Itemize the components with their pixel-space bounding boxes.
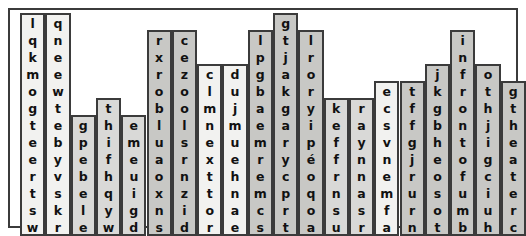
letter-cell[interactable]: u <box>222 134 247 151</box>
letter-cell[interactable]: e <box>20 134 45 151</box>
letter-cell[interactable]: t <box>501 100 526 117</box>
letter-cell[interactable]: e <box>45 117 70 134</box>
letter-cell[interactable]: f <box>400 100 425 117</box>
letter-cell[interactable]: i <box>96 134 121 151</box>
letter-cell[interactable]: u <box>222 83 247 100</box>
letter-cell[interactable]: r <box>45 219 70 236</box>
letter-cell[interactable]: u <box>475 202 500 219</box>
letter-cell[interactable]: d <box>121 219 146 236</box>
letter-cell[interactable]: m <box>20 66 45 83</box>
letter-cell[interactable]: h <box>222 168 247 185</box>
letter-cell[interactable]: e <box>374 83 399 100</box>
letter-cell[interactable]: s <box>425 185 450 202</box>
letter-cell[interactable]: e <box>501 185 526 202</box>
letter-cell[interactable]: x <box>147 49 172 66</box>
letter-cell[interactable]: l <box>71 202 96 219</box>
letter-cell[interactable]: a <box>349 185 374 202</box>
letter-cell[interactable]: n <box>324 185 349 202</box>
letter-cell[interactable]: z <box>172 66 197 83</box>
letter-cell[interactable]: f <box>400 117 425 134</box>
letter-cell[interactable]: c <box>273 168 298 185</box>
letter-cell[interactable]: o <box>172 100 197 117</box>
letter-cell[interactable]: m <box>197 100 222 117</box>
letter-cell[interactable]: r <box>349 100 374 117</box>
letter-cell[interactable]: m <box>248 185 273 202</box>
letter-cell[interactable]: r <box>349 219 374 236</box>
letter-cell[interactable]: u <box>400 185 425 202</box>
letter-cell[interactable]: i <box>298 117 323 134</box>
letter-cell[interactable]: o <box>147 83 172 100</box>
letter-cell[interactable]: g <box>273 100 298 117</box>
letter-cell[interactable]: s <box>20 202 45 219</box>
letter-cell[interactable]: g <box>273 15 298 32</box>
letter-cell[interactable]: n <box>172 168 197 185</box>
letter-cell[interactable]: o <box>298 168 323 185</box>
letter-cell[interactable]: t <box>96 100 121 117</box>
letter-cell[interactable]: r <box>273 134 298 151</box>
letter-cell[interactable]: q <box>45 15 70 32</box>
letter-cell[interactable]: e <box>374 168 399 185</box>
letter-cell[interactable]: e <box>172 49 197 66</box>
letter-cell[interactable]: h <box>475 219 500 236</box>
letter-cell[interactable]: o <box>298 202 323 219</box>
letter-cell[interactable]: w <box>20 219 45 236</box>
letter-cell[interactable]: d <box>172 219 197 236</box>
letter-cell[interactable]: t <box>197 185 222 202</box>
letter-cell[interactable]: e <box>222 151 247 168</box>
letter-cell[interactable]: e <box>71 151 96 168</box>
letter-cell[interactable]: f <box>450 66 475 83</box>
letter-cell[interactable]: k <box>273 83 298 100</box>
letter-cell[interactable]: u <box>450 185 475 202</box>
letter-cell[interactable]: p <box>71 134 96 151</box>
letter-cell[interactable]: a <box>147 151 172 168</box>
letter-cell[interactable]: i <box>121 185 146 202</box>
letter-cell[interactable]: e <box>45 49 70 66</box>
letter-cell[interactable]: x <box>147 185 172 202</box>
letter-cell[interactable]: h <box>425 134 450 151</box>
letter-cell[interactable]: p <box>273 185 298 202</box>
letter-cell[interactable]: n <box>349 168 374 185</box>
letter-cell[interactable]: b <box>248 83 273 100</box>
letter-cell[interactable]: l <box>298 32 323 49</box>
letter-cell[interactable]: a <box>298 219 323 236</box>
letter-cell[interactable]: h <box>96 117 121 134</box>
letter-cell[interactable]: h <box>501 117 526 134</box>
letter-cell[interactable]: r <box>273 202 298 219</box>
letter-cell[interactable]: g <box>121 202 146 219</box>
letter-cell[interactable]: o <box>450 100 475 117</box>
letter-cell[interactable]: w <box>45 83 70 100</box>
letter-cell[interactable]: h <box>96 168 121 185</box>
letter-cell[interactable]: r <box>147 66 172 83</box>
letter-cell[interactable]: r <box>501 202 526 219</box>
letter-cell[interactable]: s <box>374 117 399 134</box>
letter-cell[interactable]: s <box>349 202 374 219</box>
letter-cell[interactable]: u <box>324 219 349 236</box>
letter-cell[interactable]: o <box>450 151 475 168</box>
letter-cell[interactable]: g <box>248 66 273 83</box>
letter-cell[interactable]: r <box>248 151 273 168</box>
letter-cell[interactable]: s <box>324 202 349 219</box>
letter-cell[interactable]: e <box>248 117 273 134</box>
letter-cell[interactable]: k <box>45 202 70 219</box>
letter-cell[interactable]: e <box>324 117 349 134</box>
letter-cell[interactable]: i <box>475 185 500 202</box>
letter-cell[interactable]: u <box>147 134 172 151</box>
letter-cell[interactable]: c <box>475 168 500 185</box>
letter-cell[interactable]: g <box>425 100 450 117</box>
letter-cell[interactable]: b <box>45 134 70 151</box>
letter-cell[interactable]: q <box>298 185 323 202</box>
letter-cell[interactable]: y <box>273 151 298 168</box>
letter-cell[interactable]: j <box>400 151 425 168</box>
letter-cell[interactable]: l <box>172 117 197 134</box>
letter-cell[interactable]: y <box>96 202 121 219</box>
letter-cell[interactable]: m <box>121 134 146 151</box>
letter-cell[interactable]: r <box>400 168 425 185</box>
letter-cell[interactable]: y <box>349 134 374 151</box>
letter-cell[interactable]: y <box>298 100 323 117</box>
letter-cell[interactable]: n <box>349 151 374 168</box>
letter-cell[interactable]: e <box>45 66 70 83</box>
letter-cell[interactable]: m <box>222 117 247 134</box>
letter-cell[interactable]: o <box>425 168 450 185</box>
letter-cell[interactable]: c <box>501 219 526 236</box>
letter-cell[interactable]: c <box>248 202 273 219</box>
